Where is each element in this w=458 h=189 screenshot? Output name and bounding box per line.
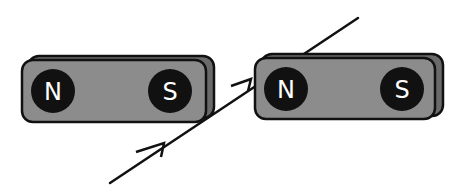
pole-label-south: S [394,76,409,104]
pole-label-south: S [162,78,177,106]
pole-south: S [380,67,424,111]
arrowhead-icon [231,79,251,91]
magnet-left: N S [22,56,214,122]
pole-south: S [148,69,192,113]
magnet-diagram: N S N S [0,0,458,189]
pole-north: N [264,67,308,111]
magnet-right: N S [255,54,443,119]
pole-north: N [31,69,75,113]
pole-label-north: N [44,78,62,106]
pole-label-north: N [277,76,295,104]
